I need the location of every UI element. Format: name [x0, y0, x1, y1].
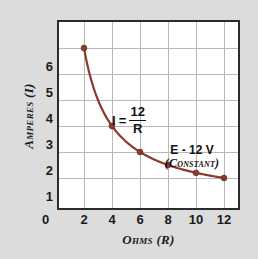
formula-numerator: 12 [130, 105, 144, 119]
x-tick-8: 8 [156, 213, 180, 226]
x-tick-12: 12 [212, 213, 236, 226]
formula-equals: = [119, 113, 127, 128]
x-tick-2: 2 [72, 213, 96, 226]
y-tick-6: 6 [31, 60, 53, 73]
data-point-6 [137, 149, 143, 155]
y-tick-4: 4 [31, 112, 53, 125]
y-tick-3: 3 [31, 138, 53, 151]
y-tick-2: 2 [31, 164, 53, 177]
data-point-10 [193, 170, 199, 176]
constant-qualifier-text: (Constant) [149, 157, 235, 170]
formula-denominator: R [133, 122, 142, 136]
x-tick-4: 4 [100, 213, 124, 226]
formula-lhs: I [112, 113, 116, 128]
series-curve-svg [59, 22, 238, 208]
plot-area: I = 12 R E - 12 V (Constant) [57, 20, 240, 210]
chart-figure: Amperes (I) 6 5 4 3 2 1 0 [0, 0, 258, 259]
x-tick-10: 10 [184, 213, 208, 226]
y-tick-5: 5 [31, 86, 53, 99]
data-point-12 [221, 175, 227, 181]
plot-inner [59, 22, 238, 208]
constant-voltage-text: E - 12 V [170, 143, 213, 157]
annotation-constant: E - 12 V (Constant) [149, 144, 235, 170]
x-tick-6: 6 [128, 213, 152, 226]
data-point-2 [81, 45, 87, 51]
annotation-formula: I = 12 R [112, 105, 146, 136]
x-axis-tick-labels: 2 4 6 8 10 12 [57, 213, 240, 229]
x-axis-title: Ohms (R) [57, 232, 240, 248]
formula-fraction: 12 R [129, 105, 146, 136]
origin-tick-label: 0 [42, 213, 49, 226]
y-tick-1: 1 [31, 190, 53, 203]
y-axis-tick-labels: 6 5 4 3 2 1 [29, 20, 53, 210]
